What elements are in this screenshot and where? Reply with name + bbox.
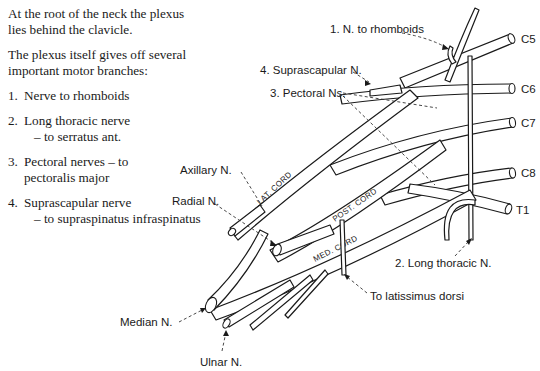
posterior-cord-label: POST. CORD [331, 186, 379, 223]
root-c6 [340, 84, 515, 105]
root-label-c7: C7 [521, 117, 536, 129]
root-label-c6: C6 [521, 83, 536, 95]
svg-text:Axillary N.: Axillary N. [180, 164, 232, 176]
label-rhomboids: 1. N. to rhomboids [330, 23, 449, 50]
label-long-thoracic: 2. Long thoracic N. [395, 238, 492, 269]
svg-text:To latissimus dorsi: To latissimus dorsi [370, 290, 464, 302]
label-latissimus: To latissimus dorsi [344, 274, 464, 302]
root-label-c5: C5 [521, 33, 536, 45]
svg-text:Median N.: Median N. [120, 316, 172, 328]
root-label-c8: C8 [521, 167, 536, 179]
svg-text:1. N. to rhomboids: 1. N. to rhomboids [330, 23, 424, 35]
rhomboid-branch [445, 8, 479, 82]
label-suprascapular: 4. Suprascapular N. [260, 64, 371, 86]
svg-text:Ulnar N.: Ulnar N. [200, 356, 242, 368]
label-median: Median N. [120, 308, 206, 328]
label-ulnar: Ulnar N. [200, 330, 242, 368]
sympathetic-chain [468, 56, 473, 240]
svg-text:2. Long thoracic N.: 2. Long thoracic N. [395, 257, 492, 269]
svg-text:4. Suprascapular N.: 4. Suprascapular N. [260, 64, 362, 76]
svg-text:Radial N.: Radial N. [172, 195, 219, 207]
svg-text:3. Pectoral Ns.: 3. Pectoral Ns. [270, 87, 345, 99]
brachial-plexus-diagram: LAT. CORD POST. CORD MED. CORD 1. N. to … [0, 0, 540, 371]
root-label-t1: T1 [516, 204, 529, 216]
